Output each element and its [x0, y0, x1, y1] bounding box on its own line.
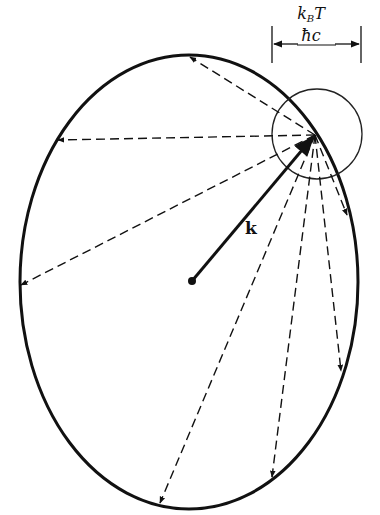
scattered-vectors: [21, 57, 347, 503]
diagram-canvas: [0, 0, 380, 515]
temperature-symbol: T: [314, 4, 325, 23]
center-dot: [188, 277, 196, 285]
k-vector-arrow: [192, 137, 313, 281]
scattered-vector: [315, 135, 347, 215]
scattered-vector: [190, 57, 315, 135]
boltzmann-k: k: [297, 4, 307, 23]
scattered-vector: [21, 135, 315, 285]
scale-numerator: kBT: [281, 4, 341, 24]
k-vector-label: k: [245, 218, 257, 238]
scattered-vector: [272, 135, 315, 477]
scattered-vector: [58, 135, 315, 140]
scale-denominator: ħc: [281, 26, 341, 45]
